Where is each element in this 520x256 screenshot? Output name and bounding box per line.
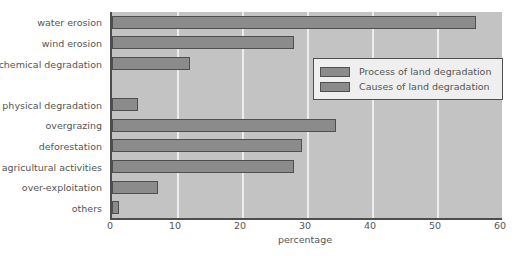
- y-axis-label: chemical degradation: [0, 58, 102, 69]
- x-axis-title: percentage: [110, 234, 500, 245]
- x-axis-tick-label: 0: [107, 220, 113, 231]
- bar: [112, 139, 302, 152]
- bars-layer: [112, 12, 502, 218]
- legend-item-label: Process of land degradation: [359, 66, 491, 77]
- legend-swatch-icon: [320, 82, 350, 92]
- bar: [112, 98, 138, 111]
- bar: [112, 160, 294, 173]
- x-axis-tick-label: 20: [234, 220, 246, 231]
- bar: [112, 57, 190, 70]
- legend-item-process: Process of land degradation: [320, 64, 496, 79]
- bar: [112, 16, 476, 29]
- bar: [112, 119, 336, 132]
- x-axis-tick-label: 10: [169, 220, 181, 231]
- legend-item-causes: Causes of land degradation: [320, 79, 496, 94]
- bar: [112, 201, 119, 214]
- plot-area: [110, 12, 502, 220]
- y-axis-label: agricultural activities: [2, 161, 102, 172]
- chart-legend: Process of land degradation Causes of la…: [313, 58, 503, 100]
- x-axis-tick-label: 50: [429, 220, 441, 231]
- x-axis-tick-labels: 0102030405060: [110, 220, 500, 234]
- y-axis-label: physical degradation: [2, 99, 102, 110]
- x-axis-tick-label: 30: [299, 220, 311, 231]
- y-axis-category-labels: water erosionwind erosionchemical degrad…: [0, 12, 106, 218]
- legend-swatch-icon: [320, 67, 350, 77]
- x-axis-tick-label: 40: [364, 220, 376, 231]
- y-axis-label: others: [72, 202, 102, 213]
- y-axis-label: overgrazing: [46, 120, 102, 131]
- y-axis-label: wind erosion: [42, 37, 102, 48]
- bar: [112, 36, 294, 49]
- legend-item-label: Causes of land degradation: [359, 81, 490, 92]
- y-axis-label: over-exploitation: [22, 182, 102, 193]
- y-axis-label: deforestation: [39, 140, 102, 151]
- bar-chart: water erosionwind erosionchemical degrad…: [0, 0, 520, 256]
- bar: [112, 181, 158, 194]
- y-axis-label: water erosion: [37, 17, 102, 28]
- x-axis-tick-label: 60: [494, 220, 506, 231]
